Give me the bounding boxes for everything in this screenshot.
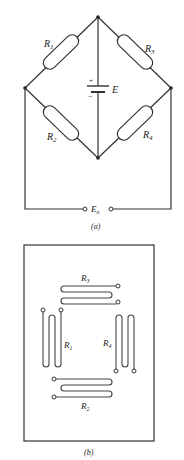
gauge-r2: R2 bbox=[52, 377, 112, 412]
wire-output-right bbox=[113, 88, 171, 209]
node-top bbox=[96, 15, 100, 19]
caption-a: (a) bbox=[91, 222, 101, 231]
wheatstone-bridge-figure: + − E R1 R2 R3 R4 Eo (a) bbox=[0, 0, 184, 460]
caption-b: (b) bbox=[84, 448, 94, 457]
gauge-r1: R1 bbox=[41, 308, 73, 367]
gauge-r4: R4 bbox=[102, 315, 136, 373]
gauge-label-r2: R2 bbox=[80, 401, 90, 412]
output-label-eo: Eo bbox=[90, 204, 100, 215]
gauge-label-r1: R1 bbox=[63, 340, 73, 351]
strain-gauge-layout: R3 R1 R4 R2 (b) bbox=[24, 245, 154, 457]
source-label-e: E bbox=[111, 84, 118, 95]
node-bottom bbox=[96, 156, 100, 160]
bridge-circuit: + − E R1 R2 R3 R4 Eo (a) bbox=[23, 15, 173, 231]
gauge-label-r4: R4 bbox=[102, 338, 112, 349]
label-r4: R4 bbox=[142, 129, 153, 142]
label-r2: R2 bbox=[46, 131, 57, 144]
output-terminal-right bbox=[109, 207, 113, 211]
gauge-r3: R3 bbox=[61, 273, 120, 304]
wire-output-left bbox=[25, 88, 83, 209]
battery-plus-sign: + bbox=[89, 77, 93, 85]
output-terminal-left bbox=[83, 207, 87, 211]
label-r1: R1 bbox=[43, 38, 54, 51]
gauge-label-r3: R3 bbox=[80, 273, 90, 284]
battery-minus-sign: − bbox=[88, 92, 93, 101]
